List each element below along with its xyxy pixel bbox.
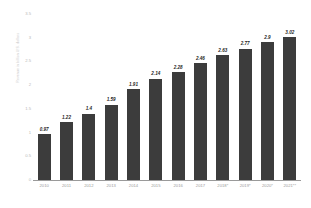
x-axis-tick: 2019* — [234, 184, 256, 188]
bar — [127, 89, 140, 180]
bar — [172, 72, 185, 180]
x-axis-tick: 2013 — [100, 184, 122, 188]
bar-value-label: 1.22 — [62, 116, 71, 121]
bar-value-label: 1.59 — [107, 98, 116, 103]
y-axis-tick: 1.5 — [17, 107, 31, 111]
x-axis-tick: 2017 — [189, 184, 211, 188]
bar — [38, 134, 51, 180]
y-axis-tick: 2 — [17, 83, 31, 87]
bar — [239, 49, 252, 180]
bar-slot: 2.9 — [256, 14, 278, 180]
y-axis-tick-labels: 3.532.521.510.50 — [14, 0, 31, 208]
bar-value-label: 2.9 — [264, 36, 270, 41]
bar-slot: 2.77 — [234, 14, 256, 180]
bar-slot: 1.91 — [122, 14, 144, 180]
x-axis-tick: 2018* — [212, 184, 234, 188]
x-axis-tick-labels: 201020112012201320142015201620172018*201… — [33, 184, 301, 188]
bar-slot: 1.22 — [55, 14, 77, 180]
x-axis-line — [33, 180, 301, 181]
bar-slot: 2.28 — [167, 14, 189, 180]
x-axis-tick: 2011 — [55, 184, 77, 188]
x-axis-tick: 2014 — [122, 184, 144, 188]
bar-value-label: 1.4 — [86, 107, 92, 112]
bar-slot: 3.02 — [279, 14, 301, 180]
bar-series: 0.971.221.41.591.912.142.282.462.632.772… — [33, 14, 301, 180]
y-axis-tick: 3 — [17, 36, 31, 40]
bar-value-label: 2.14 — [151, 72, 160, 77]
bar — [82, 114, 95, 180]
x-axis-tick: 2015 — [145, 184, 167, 188]
y-axis-tick: 0.5 — [17, 154, 31, 158]
x-axis-tick: 2012 — [78, 184, 100, 188]
bar-slot: 2.63 — [212, 14, 234, 180]
y-axis-tick: 1 — [17, 130, 31, 134]
bar-value-label: 0.97 — [40, 128, 49, 133]
bar-chart: Revenue in billion U.S. dollars 3.532.52… — [0, 0, 311, 208]
bar-value-label: 1.91 — [129, 83, 138, 88]
x-axis-tick: 2020* — [256, 184, 278, 188]
bar-value-label: 3.02 — [285, 31, 294, 36]
x-axis-tick: 2021** — [279, 184, 301, 188]
bar — [60, 122, 73, 180]
x-axis-tick: 2016 — [167, 184, 189, 188]
bar-slot: 2.14 — [145, 14, 167, 180]
bar — [261, 42, 274, 180]
bar-slot: 1.4 — [78, 14, 100, 180]
bar — [216, 55, 229, 180]
plot-area: 0.971.221.41.591.912.142.282.462.632.772… — [33, 14, 301, 181]
y-axis-tick: 0 — [17, 178, 31, 182]
bar — [283, 37, 296, 180]
bar-value-label: 2.46 — [196, 57, 205, 62]
bar-slot: 2.46 — [189, 14, 211, 180]
bar — [194, 63, 207, 180]
bar-value-label: 2.28 — [174, 66, 183, 71]
bar — [149, 79, 162, 180]
bar-slot: 0.97 — [33, 14, 55, 180]
bar — [105, 105, 118, 180]
bar-value-label: 2.77 — [241, 42, 250, 47]
x-axis-tick: 2010 — [33, 184, 55, 188]
bar-value-label: 2.63 — [218, 49, 227, 54]
y-axis-tick: 2.5 — [17, 59, 31, 63]
y-axis-tick: 3.5 — [17, 12, 31, 16]
bar-slot: 1.59 — [100, 14, 122, 180]
